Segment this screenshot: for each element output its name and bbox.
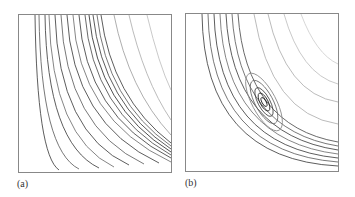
panel-label-b: (b)	[185, 177, 197, 188]
phase-portrait-b	[185, 13, 339, 172]
trajectories-b	[186, 14, 338, 171]
panel-label-a: (a)	[17, 178, 28, 189]
phase-portrait-a	[18, 14, 172, 173]
trajectories-a	[19, 15, 171, 172]
